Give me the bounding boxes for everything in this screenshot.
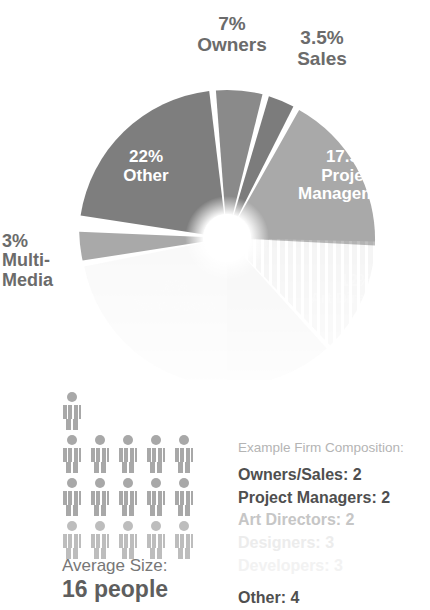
pie-chart-region: 7% Owners 3.5% Sales 3% Multi- Media 22%… <box>0 0 430 380</box>
person-body <box>175 534 193 548</box>
person-icon <box>62 521 82 559</box>
person-legs <box>150 505 162 516</box>
person-legs <box>66 462 78 473</box>
callout-multi-media-name-line2: Media <box>2 271 78 290</box>
person-head <box>151 478 161 488</box>
callout-owners-name: Owners <box>186 35 278 56</box>
callout-sales: 3.5% Sales <box>281 28 363 69</box>
person-head <box>95 521 105 531</box>
person-head <box>151 521 161 531</box>
person-head <box>67 478 77 488</box>
person-icon <box>118 435 138 473</box>
person-icon <box>146 435 166 473</box>
legend-item: Owners/Sales: 2 <box>238 464 428 487</box>
people-row <box>62 392 232 430</box>
person-icon <box>174 521 194 559</box>
person-legs <box>66 419 78 430</box>
callout-multi-media: 3% Multi- Media <box>2 232 78 290</box>
person-body <box>147 534 165 548</box>
person-body <box>175 491 193 505</box>
person-legs <box>66 505 78 516</box>
person-legs <box>150 462 162 473</box>
person-body <box>147 448 165 462</box>
person-head <box>95 478 105 488</box>
person-head <box>123 478 133 488</box>
average-size-value: 16 people <box>62 576 252 602</box>
person-head <box>95 435 105 445</box>
pie-center-hole <box>203 214 251 262</box>
person-head <box>67 435 77 445</box>
person-head <box>179 521 189 531</box>
legend: Example Firm Composition: Owners/Sales: … <box>238 440 428 609</box>
person-body <box>119 491 137 505</box>
person-body <box>119 448 137 462</box>
person-head <box>67 521 77 531</box>
average-size-block: Average Size: 16 people <box>62 556 252 602</box>
person-icon <box>174 478 194 516</box>
person-body <box>175 448 193 462</box>
callout-owners: 7% Owners <box>186 14 278 55</box>
person-body <box>119 534 137 548</box>
person-icon <box>118 521 138 559</box>
callout-sales-name: Sales <box>281 49 363 70</box>
legend-item: Developers: 3 <box>238 555 428 578</box>
legend-item-list: Owners/Sales: 2Project Managers: 2Art Di… <box>238 464 428 609</box>
person-body <box>91 534 109 548</box>
person-icon <box>118 478 138 516</box>
person-icon <box>174 435 194 473</box>
legend-title: Example Firm Composition: <box>238 440 428 455</box>
callout-multi-media-percent: 3% <box>2 232 78 251</box>
person-head <box>179 435 189 445</box>
person-head <box>151 435 161 445</box>
person-head <box>67 392 77 402</box>
person-legs <box>178 505 190 516</box>
legend-item: Other: 4 <box>238 587 428 610</box>
person-body <box>63 448 81 462</box>
person-legs <box>94 505 106 516</box>
person-icon <box>90 435 110 473</box>
person-body <box>147 491 165 505</box>
person-head <box>123 435 133 445</box>
person-icon <box>62 478 82 516</box>
legend-item: Designers: 3 <box>238 532 428 555</box>
person-legs <box>178 462 190 473</box>
person-head <box>123 521 133 531</box>
legend-item: Project Managers: 2 <box>238 487 428 510</box>
legend-item: Art Directors: 2 <box>238 509 428 532</box>
person-legs <box>122 462 134 473</box>
person-body <box>63 534 81 548</box>
person-icon <box>90 478 110 516</box>
callout-multi-media-name-line1: Multi- <box>2 251 78 270</box>
person-icon <box>146 478 166 516</box>
callout-owners-percent: 7% <box>186 14 278 35</box>
person-body <box>91 491 109 505</box>
person-body <box>63 491 81 505</box>
person-icon <box>146 521 166 559</box>
callout-sales-percent: 3.5% <box>281 28 363 49</box>
people-row <box>62 435 232 473</box>
pie-chart-svg <box>0 0 430 380</box>
person-legs <box>94 462 106 473</box>
people-pictogram <box>62 392 232 564</box>
person-body <box>63 405 81 419</box>
average-size-caption: Average Size: <box>62 556 252 576</box>
people-row <box>62 521 232 559</box>
person-legs <box>122 505 134 516</box>
person-icon <box>62 435 82 473</box>
person-icon <box>90 521 110 559</box>
person-head <box>179 478 189 488</box>
person-body <box>91 448 109 462</box>
people-row <box>62 478 232 516</box>
person-icon <box>62 392 82 430</box>
